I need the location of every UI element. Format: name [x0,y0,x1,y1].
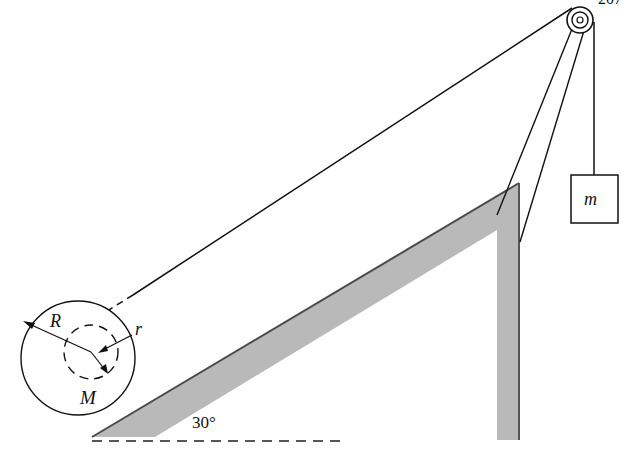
incline-frame [92,183,519,440]
spool-mass-label: M [79,387,97,408]
incline-angle-label: 30° [192,413,216,432]
inner-radius-label: r [135,319,143,339]
spool [21,301,135,415]
hanging-mass-label: m [584,189,597,209]
outer-radius-label: R [49,311,61,331]
pulley [567,7,593,33]
incline-pulley-diagram: 207 30° m R r [0,0,643,471]
incline-surface-edge [92,183,519,437]
page-number: 207 [598,0,622,7]
